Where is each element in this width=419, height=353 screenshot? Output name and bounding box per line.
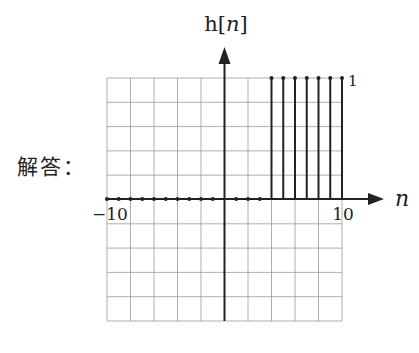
stem-marker xyxy=(211,197,215,201)
x-tick-min: −10 xyxy=(92,204,128,224)
stem-marker xyxy=(340,76,344,80)
stem-marker xyxy=(164,197,168,201)
stem-marker xyxy=(270,76,274,80)
stem-marker xyxy=(176,197,180,201)
y-axis-label: h[n] xyxy=(204,12,247,36)
y-axis-arrow-icon xyxy=(219,47,231,64)
stem-marker xyxy=(199,197,203,201)
stem-marker xyxy=(140,197,144,201)
stem-plot: h[n] n −10 10 1 xyxy=(0,0,419,353)
stem-marker xyxy=(258,197,262,201)
stem-marker xyxy=(328,76,332,80)
stem-marker xyxy=(187,197,191,201)
stem-marker xyxy=(246,197,250,201)
stem-marker xyxy=(281,76,285,80)
x-axis-arrow-icon xyxy=(368,193,384,205)
x-axis-label: n xyxy=(395,186,409,211)
stem-marker xyxy=(293,76,297,80)
stem-marker xyxy=(117,197,121,201)
stem-marker xyxy=(105,197,109,201)
stem-marker xyxy=(234,197,238,201)
stem-marker xyxy=(317,76,321,80)
amplitude-annotation: 1 xyxy=(348,72,358,90)
stem-marker xyxy=(152,197,156,201)
x-tick-max: 10 xyxy=(332,204,354,224)
stem-marker xyxy=(129,197,133,201)
stem-marker xyxy=(305,76,309,80)
